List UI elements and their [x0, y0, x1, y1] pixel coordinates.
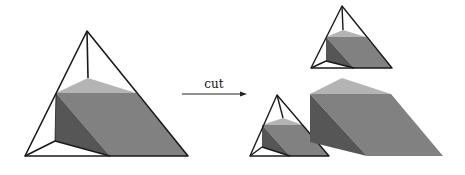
- arrow-head-icon: [240, 92, 247, 97]
- cut-piece-prism: [310, 78, 443, 156]
- cut-piece-top-tetrahedron: [311, 6, 392, 68]
- arrow-label: cut: [204, 77, 223, 91]
- prism-top-face: [56, 78, 136, 93]
- tetrahedron-inner-edge-vertical: [87, 31, 88, 78]
- diagram-canvas: cut: [0, 0, 465, 175]
- original-tetrahedron: [25, 31, 188, 156]
- cut-arrow: cut: [182, 77, 247, 97]
- prism-top-face: [310, 78, 391, 94]
- prism-top-face: [326, 30, 366, 37]
- tetrahedron-inner-edge-vertical: [342, 6, 343, 30]
